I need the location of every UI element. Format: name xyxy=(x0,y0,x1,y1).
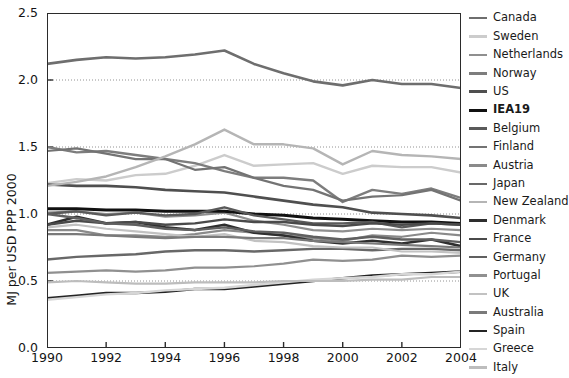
legend-label: Germany xyxy=(493,252,546,264)
legend-label: Greece xyxy=(493,343,534,355)
plot-frame xyxy=(47,13,461,348)
legend-swatch-icon xyxy=(469,274,487,276)
legend-item[interactable]: Italy xyxy=(469,358,565,376)
legend-swatch-icon xyxy=(469,293,487,295)
legend-item[interactable]: Greece xyxy=(469,340,565,358)
legend-label: Canada xyxy=(493,12,537,24)
legend-item[interactable]: Spain xyxy=(469,322,565,340)
legend-item[interactable]: US xyxy=(469,83,565,101)
legend-swatch-icon xyxy=(469,35,487,37)
legend-swatch-icon xyxy=(469,109,487,112)
legend-swatch-icon xyxy=(469,183,487,185)
legend-swatch-icon xyxy=(469,330,487,333)
legend-label: Portugal xyxy=(493,270,541,282)
legend-label: New Zealand xyxy=(493,196,569,208)
legend-swatch-icon xyxy=(469,311,487,313)
legend-swatch-icon xyxy=(469,146,487,148)
plot-area xyxy=(47,13,461,348)
legend-swatch-icon xyxy=(469,164,487,166)
y-axis-title: MJ per USD PPP 2000 xyxy=(4,90,19,378)
legend-item[interactable]: Portugal xyxy=(469,266,565,284)
legend-label: France xyxy=(493,233,531,245)
legend-swatch-icon xyxy=(469,238,487,240)
legend-item[interactable]: Canada xyxy=(469,9,565,27)
legend-label: Italy xyxy=(493,362,518,374)
legend-swatch-icon xyxy=(469,219,487,222)
x-tick-label: 1996 xyxy=(209,352,241,365)
legend-label: Finland xyxy=(493,141,534,153)
legend-item[interactable]: Norway xyxy=(469,64,565,82)
legend-label: Austria xyxy=(493,160,534,172)
x-tick-label: 1990 xyxy=(31,352,63,365)
legend-item[interactable]: Australia xyxy=(469,303,565,321)
legend-label: Australia xyxy=(493,307,544,319)
legend-item[interactable]: Germany xyxy=(469,248,565,266)
y-tick-label: 2.5 xyxy=(0,7,43,20)
legend-swatch-icon xyxy=(469,366,487,368)
legend-item[interactable]: Belgium xyxy=(469,119,565,137)
legend: CanadaSwedenNetherlandsNorwayUSIEA19Belg… xyxy=(469,9,565,377)
legend-item[interactable]: Sweden xyxy=(469,27,565,45)
x-tick-label: 1992 xyxy=(90,352,122,365)
x-tick-label: 1994 xyxy=(149,352,181,365)
legend-label: Japan xyxy=(493,178,525,190)
legend-swatch-icon xyxy=(469,54,487,56)
legend-label: Belgium xyxy=(493,123,540,135)
legend-item[interactable]: IEA19 xyxy=(469,101,565,119)
legend-item[interactable]: Denmark xyxy=(469,211,565,229)
x-tick-label: 1998 xyxy=(268,352,300,365)
legend-label: Norway xyxy=(493,68,537,80)
legend-item[interactable]: UK xyxy=(469,285,565,303)
legend-swatch-icon xyxy=(469,201,487,203)
legend-item[interactable]: New Zealand xyxy=(469,193,565,211)
legend-swatch-icon xyxy=(469,17,487,20)
x-tick-label: 2002 xyxy=(386,352,418,365)
legend-label: Netherlands xyxy=(493,49,563,61)
x-tick-label: 2000 xyxy=(327,352,359,365)
legend-label: US xyxy=(493,86,509,98)
legend-swatch-icon xyxy=(469,90,487,93)
legend-label: UK xyxy=(493,288,509,300)
legend-swatch-icon xyxy=(469,127,487,129)
legend-item[interactable]: Japan xyxy=(469,175,565,193)
legend-item[interactable]: Austria xyxy=(469,156,565,174)
legend-swatch-icon xyxy=(469,256,487,258)
legend-item[interactable]: France xyxy=(469,230,565,248)
legend-label: Spain xyxy=(493,325,525,337)
legend-swatch-icon xyxy=(469,348,487,350)
y-tick-label: 2.0 xyxy=(0,74,43,87)
legend-item[interactable]: Netherlands xyxy=(469,46,565,64)
legend-label: Sweden xyxy=(493,31,538,43)
legend-swatch-icon xyxy=(469,72,487,74)
legend-item[interactable]: Finland xyxy=(469,138,565,156)
legend-label: Denmark xyxy=(493,215,546,227)
legend-label: IEA19 xyxy=(493,104,530,116)
